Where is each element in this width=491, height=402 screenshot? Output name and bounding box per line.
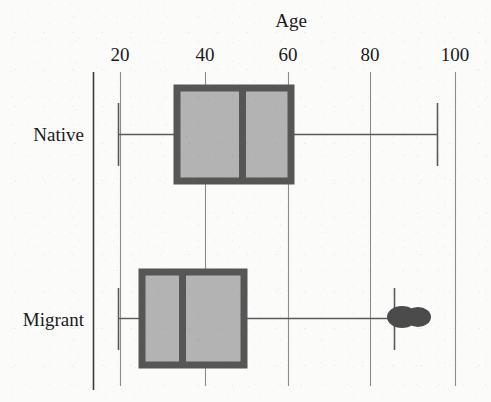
x-tick-label-60: 60	[279, 44, 298, 65]
x-tick-label-20: 20	[111, 44, 130, 65]
box-plot-chart: Age 20 40 60 80 100 Native Migrant	[0, 0, 491, 402]
x-tick-label-80: 80	[361, 44, 380, 65]
native-box	[177, 88, 291, 181]
category-label-migrant: Migrant	[23, 309, 85, 330]
x-tick-label-100: 100	[441, 44, 470, 65]
chart-title: Age	[275, 10, 307, 31]
migrant-box	[142, 272, 244, 365]
category-label-native: Native	[33, 124, 84, 145]
migrant-outlier-2	[405, 307, 431, 327]
x-tick-label-40: 40	[196, 44, 215, 65]
